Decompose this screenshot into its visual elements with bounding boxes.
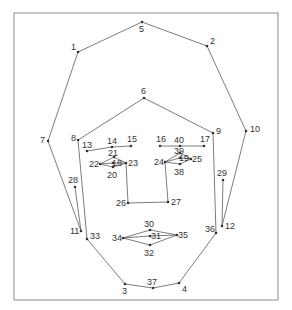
point-label-13: 13	[82, 140, 92, 150]
point-label-24: 24	[154, 157, 164, 167]
point-label-5: 5	[139, 24, 144, 34]
point-label-9: 9	[216, 126, 221, 136]
point-label-18: 18	[112, 158, 122, 168]
point-22	[99, 163, 102, 166]
point-label-17: 17	[200, 134, 210, 144]
point-26	[127, 202, 130, 205]
point-34	[122, 237, 125, 240]
point-24	[164, 161, 167, 164]
point-label-7: 7	[40, 135, 45, 145]
point-label-33: 33	[90, 231, 100, 241]
point-label-40: 40	[174, 135, 184, 145]
point-label-34: 34	[112, 233, 122, 243]
point-label-36: 36	[205, 224, 215, 234]
point-label-4: 4	[182, 284, 187, 294]
face-landmark-diagram: 1234567891011121314151617181920212223242…	[0, 0, 292, 310]
point-15	[130, 145, 133, 148]
point-label-16: 16	[156, 134, 166, 144]
point-7	[47, 140, 50, 143]
point-label-11: 11	[70, 226, 79, 236]
point-label-10: 10	[250, 124, 260, 134]
point-6	[143, 97, 146, 100]
point-32	[149, 244, 152, 247]
point-13	[86, 150, 89, 153]
point-23	[125, 162, 128, 165]
point-label-27: 27	[171, 197, 181, 207]
point-label-32: 32	[144, 248, 154, 258]
point-label-15: 15	[127, 134, 137, 144]
point-10	[245, 130, 248, 133]
point-label-2: 2	[210, 36, 215, 46]
point-33	[86, 238, 89, 241]
point-label-21: 21	[108, 148, 118, 158]
point-8	[77, 139, 80, 142]
point-label-39: 39	[174, 146, 184, 156]
point-label-8: 8	[71, 133, 76, 143]
point-label-26: 26	[116, 198, 126, 208]
point-17	[203, 145, 206, 148]
point-36	[215, 232, 218, 235]
point-label-12: 12	[225, 221, 235, 231]
point-label-25: 25	[192, 154, 202, 164]
point-label-14: 14	[107, 136, 117, 146]
point-label-20: 20	[107, 170, 117, 180]
point-38	[179, 163, 182, 166]
point-37	[152, 287, 155, 290]
point-4	[178, 282, 181, 285]
point-label-37: 37	[147, 277, 157, 287]
point-label-30: 30	[144, 219, 154, 229]
point-29	[222, 179, 225, 182]
point-label-31: 31	[151, 231, 161, 241]
point-3	[124, 283, 127, 286]
point-12	[221, 225, 224, 228]
point-label-6: 6	[141, 86, 146, 96]
point-9	[212, 132, 215, 135]
point-16	[159, 145, 162, 148]
point-label-1: 1	[71, 42, 76, 52]
point-1	[77, 51, 80, 54]
point-11	[80, 230, 83, 233]
point-label-23: 23	[128, 158, 138, 168]
point-label-29: 29	[217, 168, 227, 178]
point-label-35: 35	[178, 230, 188, 240]
point-label-38: 38	[174, 167, 184, 177]
point-2	[206, 45, 209, 48]
point-label-22: 22	[89, 159, 99, 169]
point-5	[141, 21, 144, 24]
point-label-3: 3	[122, 286, 127, 296]
point-28	[74, 186, 77, 189]
point-label-28: 28	[68, 175, 78, 185]
point-27	[167, 201, 170, 204]
